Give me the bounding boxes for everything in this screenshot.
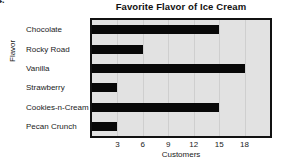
category-label: Strawberry — [26, 83, 88, 92]
gridline-6 — [143, 20, 144, 136]
bar — [92, 45, 143, 54]
x-tick-label: 15 — [215, 140, 224, 150]
bar — [92, 25, 219, 34]
category-label: Vanilla — [26, 64, 88, 73]
bar — [92, 83, 117, 92]
category-label: Chocolate — [26, 25, 88, 34]
bar — [92, 64, 245, 73]
y-axis-label: Flavor — [8, 40, 17, 62]
gridline-18 — [245, 20, 246, 136]
category-label: Pecan Crunch — [26, 122, 88, 131]
x-tick-label: 3 — [115, 140, 119, 150]
x-tick-label: 12 — [189, 140, 198, 150]
chart-title: Favorite Flavor of Ice Cream — [90, 1, 272, 13]
gridline-9 — [168, 20, 169, 136]
x-tick-label: 6 — [141, 140, 145, 150]
gridline-3 — [117, 20, 118, 136]
plot-area — [90, 18, 272, 138]
gridline-15 — [219, 20, 220, 136]
bar — [92, 122, 117, 131]
gridline-12 — [194, 20, 195, 136]
x-axis-label: Customers — [90, 150, 272, 160]
plot-inner — [92, 20, 270, 136]
question-number: 4. — [0, 0, 5, 5]
category-label: Rocky Road — [26, 45, 88, 54]
category-axis-labels: ChocolateRocky RoadVanillaStrawberryCook… — [26, 18, 88, 138]
x-tick-label: 9 — [166, 140, 170, 150]
bar — [92, 103, 219, 112]
category-label: Cookies-n-Cream — [26, 103, 88, 112]
x-tick-label: 18 — [240, 140, 249, 150]
